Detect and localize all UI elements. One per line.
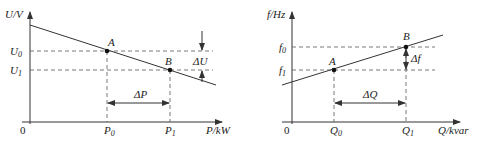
q0-label: Q0 [330, 124, 342, 138]
point-b [168, 68, 173, 73]
x-axis-label: Q/kvar [438, 124, 469, 136]
origin-label: 0 [284, 124, 290, 136]
right-chart-f-q: f/Hz 0 f0 f1 A B ΔQ Δf Q0 Q1 Q/kvar [267, 8, 469, 138]
delta-q-label: ΔQ [362, 88, 377, 100]
droop-line [30, 25, 216, 85]
p0-label: P0 [103, 124, 115, 138]
x-axis-label: P/kW [205, 124, 231, 136]
p1-label: P1 [164, 124, 176, 138]
point-a-label: A [328, 55, 336, 67]
delta-p-label: ΔP [133, 88, 147, 100]
delta-u-label: ΔU [192, 55, 208, 67]
left-chart-u-p: U/V 0 U0 U1 A B ΔP ΔU P0 P1 P/kW [5, 8, 231, 138]
origin-label: 0 [20, 124, 26, 136]
point-b [404, 45, 409, 50]
droop-diagrams: U/V 0 U0 U1 A B ΔP ΔU P0 P1 P/kW [0, 0, 478, 149]
f1-label: f1 [279, 64, 286, 78]
delta-f-label: Δf [410, 52, 422, 64]
y-axis-label: U/V [5, 8, 24, 20]
point-a [105, 49, 110, 54]
point-a-label: A [107, 36, 115, 48]
u0-label: U0 [10, 45, 22, 59]
y-axis-label: f/Hz [267, 8, 286, 20]
q1-label: Q1 [402, 124, 414, 138]
point-b-label: B [165, 55, 172, 67]
u1-label: U1 [10, 64, 22, 78]
f0-label: f0 [279, 41, 286, 55]
point-a [332, 68, 337, 73]
point-b-label: B [403, 30, 410, 42]
